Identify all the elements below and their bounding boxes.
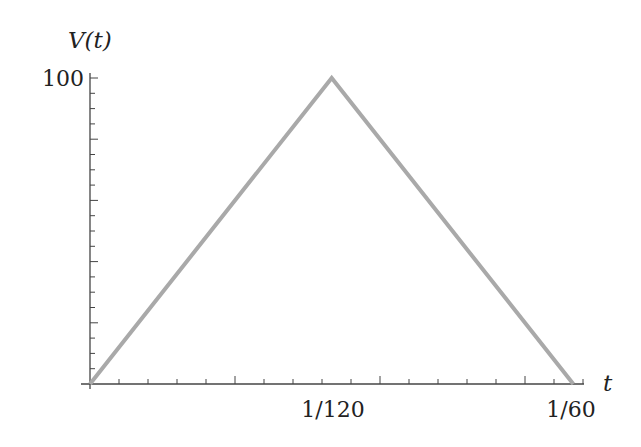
y-tick-label-100: 100	[42, 66, 84, 91]
voltage-series-line	[90, 78, 573, 384]
axes	[81, 73, 584, 389]
x-tick-label-1-60: 1/60	[546, 397, 595, 422]
x-axis-label: t	[603, 370, 613, 396]
axis-ticks	[90, 78, 583, 384]
y-axis-label: V(t)	[68, 27, 112, 53]
x-tick-label-1-120: 1/120	[301, 397, 364, 422]
triangle-wave-chart: V(t) t 100 1/120 1/60	[0, 0, 641, 447]
